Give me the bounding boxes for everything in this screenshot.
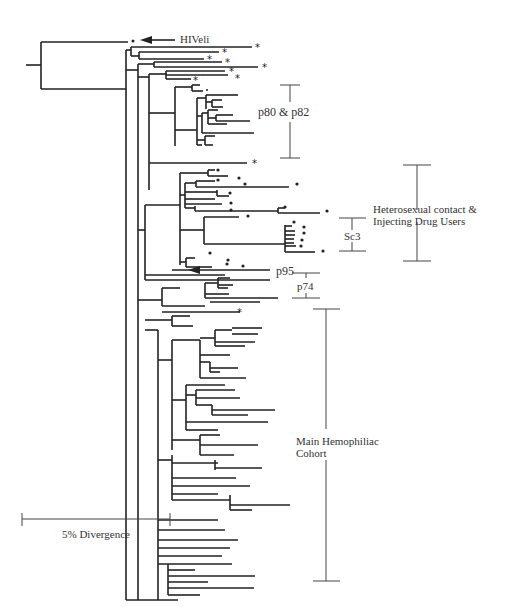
scale-bar — [22, 513, 170, 526]
phylogenetic-tree-figure: * * * * * * * * — [0, 0, 506, 607]
tree-svg: * * * * * * * * — [0, 0, 506, 607]
svg-text:*: * — [237, 307, 242, 318]
p74-clade: * — [138, 278, 278, 318]
p80-p82-label: p80 & p82 — [258, 106, 309, 118]
hiveli-label: HIVeli — [180, 33, 209, 45]
svg-text:*: * — [207, 54, 212, 65]
hetero-label-line1: Heterosexual contact & — [373, 203, 477, 215]
svg-text:*: * — [255, 42, 260, 53]
root-branches — [26, 42, 128, 600]
svg-text:*: * — [262, 62, 267, 73]
hemophiliac-label-line1: Main Hemophiliac — [296, 435, 379, 447]
svg-text:*: * — [235, 73, 240, 84]
p74-label: p74 — [297, 280, 314, 292]
svg-text:*: * — [229, 66, 234, 77]
p80-p82-bracket — [280, 85, 300, 158]
hiveli-arrow-icon — [132, 36, 176, 44]
p80-p82-clade — [149, 85, 254, 146]
hetero-label-line2: Injecting Drug Users — [373, 215, 465, 227]
heterosexual-idu-clade — [138, 168, 329, 280]
sc3-label: Sc3 — [344, 230, 361, 242]
hemophiliac-label-line2: Cohort — [296, 447, 327, 459]
hemophiliac-clade — [126, 316, 290, 600]
scale-bar-label: 5% Divergence — [62, 528, 130, 540]
svg-text:*: * — [252, 158, 257, 169]
p95-label: p95 — [276, 265, 294, 277]
